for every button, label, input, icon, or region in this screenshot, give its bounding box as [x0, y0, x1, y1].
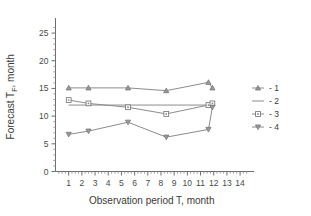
data-point-marker-dot: [88, 102, 90, 104]
y-axis-title-text: Forecast TF, month: [5, 54, 18, 139]
y-tick-label: 15: [39, 83, 49, 93]
x-tick-label: 12: [209, 178, 219, 188]
data-point-marker: [66, 132, 71, 137]
chart-canvas: 05101520251234567891011121314Observation…: [0, 0, 311, 216]
y-tick-label: 20: [39, 56, 49, 66]
data-point-marker-dot: [208, 104, 210, 106]
x-axis-title: Observation period T, month: [89, 195, 214, 206]
x-tick-label: 7: [145, 178, 150, 188]
x-tick-label: 14: [235, 178, 245, 188]
y-axis-title: Forecast TF, month: [5, 54, 18, 139]
y-tick-label: 5: [44, 139, 49, 149]
legend-label-4: - 4: [269, 122, 279, 132]
data-point-marker-dot: [212, 102, 214, 104]
y-tick-label: 10: [39, 111, 49, 121]
legend-item-3[interactable]: - 3: [252, 109, 279, 119]
data-point-marker-dot: [68, 99, 70, 101]
data-point-marker-dot: [165, 113, 167, 115]
x-tick-label: 3: [93, 178, 98, 188]
x-tick-label: 11: [196, 178, 205, 188]
x-tick-label: 13: [222, 178, 232, 188]
y-tick-label: 25: [39, 28, 49, 38]
x-tick-label: 5: [119, 178, 124, 188]
x-tick-label: 9: [172, 178, 177, 188]
y-tick-label: 0: [44, 167, 49, 177]
x-tick-label: 10: [183, 178, 193, 188]
legend-label-3: - 3: [269, 109, 279, 119]
series-3: [66, 98, 215, 117]
x-tick-label: 1: [66, 178, 71, 188]
series-line-4: [69, 107, 213, 137]
legend-item-4[interactable]: - 4: [252, 122, 279, 132]
legend-label-2: - 2: [269, 96, 279, 106]
legend-item-2[interactable]: - 2: [252, 96, 279, 106]
chart-figure: 05101520251234567891011121314Observation…: [0, 0, 311, 216]
data-point-marker-dot: [257, 113, 259, 115]
x-tick-label: 6: [132, 178, 137, 188]
data-point-marker: [164, 135, 169, 140]
series-1: [66, 80, 215, 93]
data-point-marker-dot: [127, 106, 129, 108]
series-4: [66, 105, 215, 140]
x-tick-label: 8: [159, 178, 164, 188]
data-point-marker: [206, 80, 211, 85]
x-tick-label: 4: [106, 178, 111, 188]
legend-item-1[interactable]: - 1: [252, 83, 279, 93]
legend-label-1: - 1: [269, 83, 279, 93]
x-tick-label: 2: [80, 178, 85, 188]
